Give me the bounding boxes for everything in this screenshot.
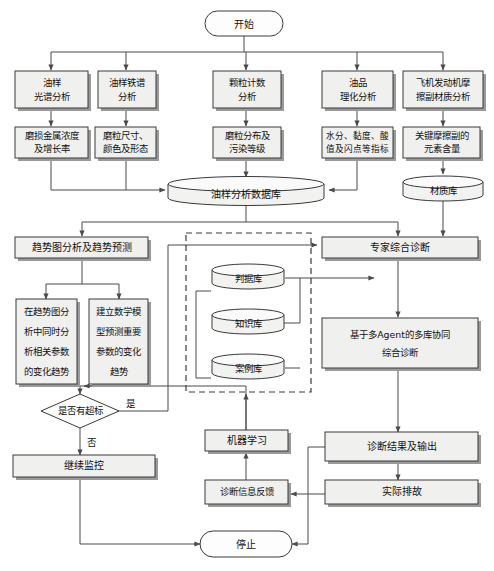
node-label-line-2: 理化分析 [340,91,376,102]
node-start[interactable]: 开始 [205,11,283,36]
node-continue-monitoring[interactable]: 继续监控 [13,455,158,480]
node-label-line-1: 油品 [349,77,367,88]
node-water-viscosity-acid-flashpoint[interactable]: 水分、黏度、酸 值及闪点等指标 [322,127,396,161]
node-decision-exceed-threshold[interactable]: 是否有超标 [41,394,119,428]
node-expert-comprehensive-diagnosis[interactable]: 专家综合诊断 [322,237,481,261]
node-actual-troubleshooting-label: 实际排故 [382,485,422,497]
node-label-line-1: 飞机发动机摩 [416,77,470,88]
node-label-line-2: 光谱分析 [34,91,70,102]
node-oil-analysis-database[interactable]: 油样分析数据库 [168,177,324,206]
node-engine-friction-material-analysis[interactable]: 飞机发动机摩 擦副材质分析 [403,71,486,111]
flowchart-canvas: 开始 油样 光谱分析 油样铁谱 分析 颗粒计数 分析 油品 理化分析 飞机发动机… [0,0,494,571]
node-diagnosis-feedback-label: 诊断信息反馈 [220,486,274,497]
flowchart-svg: 开始 油样 光谱分析 油样铁谱 分析 颗粒计数 分析 油品 理化分析 飞机发动机… [0,0,494,571]
node-label-line-2: 污染等级 [229,143,266,154]
node-knowledge-database-label: 知识库 [235,318,262,329]
node-key-friction-pair-elements[interactable]: 关键摩擦副的 元素含量 [403,127,483,161]
node-label-line-1: 在趋势图分 [24,306,69,317]
node-case-database-label: 案例库 [235,363,262,374]
node-particle-count-analysis[interactable]: 颗粒计数 分析 [213,71,284,111]
node-trend-analysis-label: 趋势图分析及趋势预测 [32,241,132,253]
node-label-line-4: 趋势 [110,366,128,377]
node-label-line-2: 析中同时分 [24,326,69,337]
node-multi-agent-diagnosis[interactable]: 基于多Agent的多库协同 综合诊断 [322,318,481,371]
node-machine-learning-label: 机器学习 [227,434,267,446]
node-label-line-4: 的变化趋势 [24,366,69,377]
node-decision-label: 是否有超标 [58,405,103,416]
node-label-line-1: 油样铁谱 [109,77,145,88]
node-label-line-3: 参数的变化 [96,346,141,357]
node-stop[interactable]: 停止 [200,531,292,557]
node-label-line-2: 颜色及形态 [103,143,148,154]
node-start-label: 开始 [234,18,254,30]
edge-label-no: 否 [87,437,97,448]
node-trend-math-model-prediction[interactable]: 建立数学模 型预测重要 参数的变化 趋势 [89,299,151,387]
node-material-database[interactable]: 材质库 [403,176,483,201]
node-label-line-2: 分析 [118,91,136,102]
node-label-line-1: 磨粒尺寸、 [103,130,148,141]
node-label-line-2: 擦副材质分析 [416,91,470,102]
node-label-line-1: 建立数学模 [96,306,142,317]
node-oil-physicochemical-analysis[interactable]: 油品 理化分析 [322,71,396,111]
node-label-line-1: 水分、黏度、酸 [326,130,389,141]
node-label-line-1: 油样 [43,77,61,88]
node-criteria-database-label: 判据库 [235,273,262,284]
node-expert-diagnosis-label: 专家综合诊断 [370,241,430,253]
node-continue-monitoring-label: 继续监控 [64,459,104,471]
node-material-database-label: 材质库 [430,185,457,196]
node-actual-troubleshooting[interactable]: 实际排故 [325,480,481,507]
node-label-line-2: 型预测重要 [96,326,141,337]
edge-label-yes: 是 [126,398,136,409]
node-label-line-2: 综合诊断 [382,347,418,358]
node-label-line-1: 基于多Agent的多库协同 [350,329,450,340]
node-label-line-2: 元素含量 [424,143,460,154]
node-label-line-3: 析相关参数 [24,346,70,357]
node-trend-correlated-params[interactable]: 在趋势图分 析中同时分 析相关参数 的变化趋势 [16,299,80,387]
node-stop-label: 停止 [236,538,256,550]
node-oil-ferrograph-analysis[interactable]: 油样铁谱 分析 [98,71,159,111]
node-label-line-1: 磨粒分布及 [225,130,271,141]
node-case-database[interactable]: 案例库 [212,354,284,379]
node-diagnosis-result-label: 诊断结果及输出 [367,440,437,452]
node-wear-metal-concentration[interactable]: 磨损金属浓度 及增长率 [15,127,91,161]
node-label-line-2: 分析 [238,91,256,102]
node-diagnosis-feedback[interactable]: 诊断信息反馈 [205,480,291,507]
node-criteria-database[interactable]: 判据库 [212,264,284,289]
node-oil-spectrum-analysis[interactable]: 油样 光谱分析 [15,71,91,111]
node-machine-learning[interactable]: 机器学习 [205,430,291,454]
node-knowledge-database[interactable]: 知识库 [212,309,284,334]
node-particle-distribution-contamination[interactable]: 磨粒分布及 污染等级 [213,127,284,161]
node-trend-analysis[interactable]: 趋势图分析及趋势预测 [15,237,151,261]
node-oil-analysis-database-label: 油样分析数据库 [211,188,281,200]
node-label-line-1: 颗粒计数 [229,77,266,88]
node-diagnosis-result-output[interactable]: 诊断结果及输出 [325,432,481,464]
node-label-line-2: 及增长率 [34,143,70,154]
node-particle-size-color-morphology[interactable]: 磨粒尺寸、 颜色及形态 [95,127,159,161]
node-label-line-1: 关键摩擦副的 [415,130,469,141]
node-label-line-2: 值及闪点等指标 [326,143,389,154]
node-label-line-1: 磨损金属浓度 [25,130,79,141]
